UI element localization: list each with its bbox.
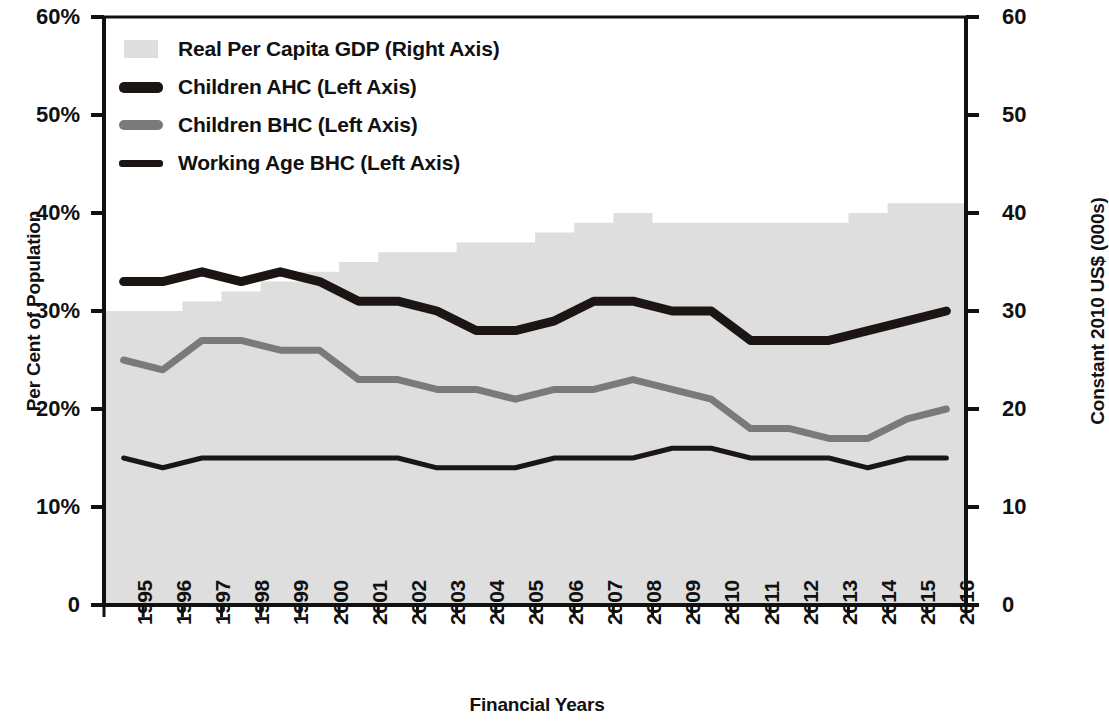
chart-legend: Real Per Capita GDP (Right Axis) Childre… [118,30,500,182]
y2-axis-tick-label: 40 [1002,200,1082,226]
legend-item-gdp: Real Per Capita GDP (Right Axis) [118,30,500,68]
x-axis-tick-label: 2002 [407,580,431,625]
x-axis-tick-label: 2005 [524,580,548,625]
x-axis-tick-label: 2011 [760,581,784,625]
legend-item-label: Working Age BHC (Left Axis) [178,151,460,175]
x-axis-title: Financial Years [0,694,1074,716]
y-axis-tick-label: 50% [0,102,80,128]
legend-item-children-ahc: Children AHC (Left Axis) [118,68,500,106]
x-axis-tick-label: 1997 [211,580,235,625]
legend-item-working-age-bhc: Working Age BHC (Left Axis) [118,144,500,182]
x-axis-tick-label: 2001 [368,580,392,625]
x-axis-tick-label: 2016 [955,580,979,625]
y2-axis-tick-label: 0 [1002,592,1082,618]
x-axis-tick-label: 2008 [642,580,666,625]
thin-line-swatch-icon [118,155,164,171]
legend-item-label: Real Per Capita GDP (Right Axis) [178,37,500,61]
x-axis-tick-label: 2015 [916,580,940,625]
mid-line-swatch-icon [118,117,164,133]
x-axis-tick-label: 1998 [250,580,274,625]
series-real-per-capita-gdp [104,203,966,605]
x-axis-tick-label: 2010 [720,580,744,625]
x-axis-tick-label: 1995 [133,580,157,625]
x-axis-tick-label: 2009 [681,580,705,625]
y-axis-title: Per Cent of Population [23,191,45,431]
x-axis-tick-label: 1999 [289,580,313,625]
area-swatch-icon [118,41,164,57]
x-axis-tick-label: 2013 [838,580,862,625]
x-axis-tick-label: 2000 [329,580,353,625]
y2-axis-tick-label: 60 [1002,4,1082,30]
x-axis-tick-label: 2006 [564,580,588,625]
y2-axis-tick-label: 20 [1002,396,1082,422]
y2-axis-tick-label: 10 [1002,494,1082,520]
x-axis-tick-label: 2014 [877,580,901,625]
x-axis-tick-label: 2007 [603,580,627,625]
legend-item-label: Children AHC (Left Axis) [178,75,417,99]
x-axis-tick-label: 2012 [799,580,823,625]
y2-axis-tick-label: 30 [1002,298,1082,324]
thick-line-swatch-icon [118,79,164,95]
y-axis-tick-label: 60% [0,4,80,30]
y-axis-tick-label: 0 [0,592,80,618]
x-axis-tick-label: 2004 [485,580,509,625]
x-axis-tick-label: 2003 [446,580,470,625]
legend-item-children-bhc: Children BHC (Left Axis) [118,106,500,144]
y-axis-tick-label: 10% [0,494,80,520]
y2-axis-title: Constant 2010 US$ (000s) [1087,161,1109,461]
legend-item-label: Children BHC (Left Axis) [178,113,417,137]
gdp-area-path [104,203,966,605]
x-axis-tick-label: 1996 [172,580,196,625]
y2-axis-tick-label: 50 [1002,102,1082,128]
